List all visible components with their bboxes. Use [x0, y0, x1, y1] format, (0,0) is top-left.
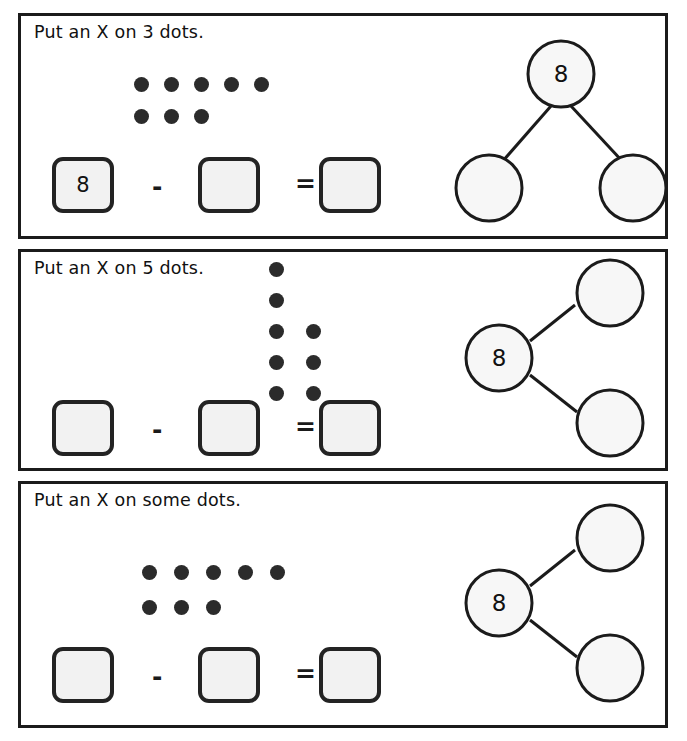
equals-sign: = — [295, 414, 316, 439]
dot[interactable] — [306, 324, 321, 339]
panel-1-number-bond: 8 — [427, 22, 667, 227]
dot[interactable] — [134, 77, 149, 92]
panel-1-difference-box[interactable] — [319, 157, 381, 213]
dot[interactable] — [254, 77, 269, 92]
dot[interactable] — [174, 565, 189, 580]
panel-2-number-bond: 8 — [427, 255, 667, 460]
panel-1-subtrahend-box[interactable] — [198, 157, 260, 213]
worksheet-panel-1: Put an X on 3 dots. 8 - = — [18, 13, 668, 239]
dot[interactable] — [164, 109, 179, 124]
dot[interactable] — [269, 324, 284, 339]
dot[interactable] — [269, 355, 284, 370]
dot[interactable] — [164, 77, 179, 92]
dot[interactable] — [194, 77, 209, 92]
minus-sign: - — [152, 417, 162, 442]
panel-2-subtrahend-box[interactable] — [198, 400, 260, 456]
panel-3-subtrahend-box[interactable] — [198, 647, 260, 703]
dot[interactable] — [142, 565, 157, 580]
panel-2-prompt: Put an X on 5 dots. — [34, 258, 204, 278]
dot[interactable] — [142, 600, 157, 615]
equals-sign: = — [295, 171, 316, 196]
dot[interactable] — [134, 109, 149, 124]
worksheet-panel-2: Put an X on 5 dots. - = — [18, 249, 668, 471]
panel-3-number-bond: 8 — [427, 492, 667, 707]
panel-2-bond-whole: 8 — [492, 345, 507, 371]
worksheet-sheet: Put an X on 3 dots. 8 - = — [0, 0, 687, 741]
dot[interactable] — [194, 109, 209, 124]
dot[interactable] — [306, 386, 321, 401]
panel-2-minuend-box[interactable] — [52, 400, 114, 456]
panel-1-bond-whole: 8 — [554, 61, 569, 87]
minus-sign: - — [152, 664, 162, 689]
dot[interactable] — [269, 262, 284, 277]
panel-2-difference-box[interactable] — [319, 400, 381, 456]
minus-sign: - — [152, 174, 162, 199]
equals-sign: = — [295, 661, 316, 686]
panel-3-difference-box[interactable] — [319, 647, 381, 703]
dot[interactable] — [206, 600, 221, 615]
panel-3-prompt: Put an X on some dots. — [34, 490, 241, 510]
dot[interactable] — [174, 600, 189, 615]
dot[interactable] — [206, 565, 221, 580]
worksheet-panel-3: Put an X on some dots. - = — [18, 481, 668, 728]
dot[interactable] — [270, 565, 285, 580]
dot[interactable] — [269, 293, 284, 308]
panel-3-bond-whole: 8 — [492, 590, 507, 616]
dot[interactable] — [269, 386, 284, 401]
panel-1-minuend-box[interactable]: 8 — [52, 157, 114, 213]
dot[interactable] — [238, 565, 253, 580]
dot[interactable] — [306, 355, 321, 370]
panel-1-prompt: Put an X on 3 dots. — [34, 22, 204, 42]
dot[interactable] — [224, 77, 239, 92]
panel-3-minuend-box[interactable] — [52, 647, 114, 703]
